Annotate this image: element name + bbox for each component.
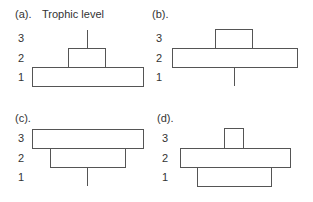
level-label-1: 1: [162, 171, 168, 183]
level-1-bar: [197, 167, 272, 187]
level-label-3: 3: [162, 132, 168, 144]
level-3-bar: [224, 128, 244, 149]
pyramid-panel-d: (d). 3 2 1: [0, 0, 313, 202]
level-2-bar: [180, 148, 291, 168]
level-label-2: 2: [162, 152, 168, 164]
panel-label-d: (d).: [157, 112, 174, 124]
